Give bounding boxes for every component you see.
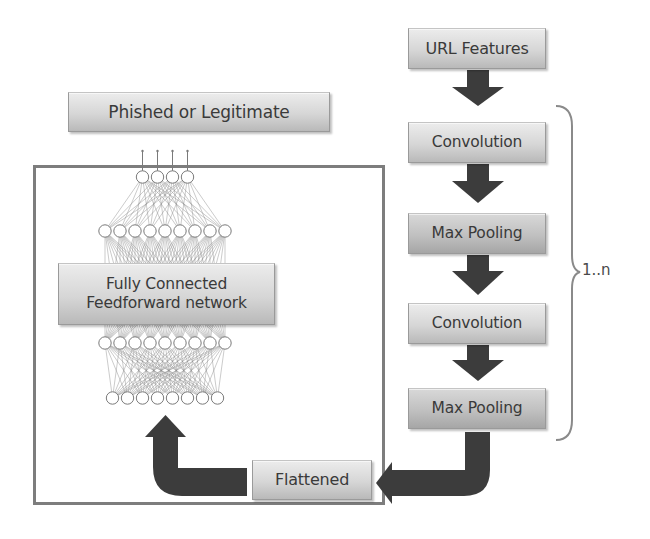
neuron-node-icon — [136, 171, 148, 183]
flattened-label: Flattened — [275, 470, 349, 489]
stage-label: Convolution — [432, 314, 522, 333]
neuron-node-icon — [166, 171, 178, 183]
down-arrow-icon — [452, 164, 504, 203]
neuron-node-icon — [189, 337, 201, 349]
down-arrow-icon — [452, 70, 504, 106]
output-ticks — [141, 150, 188, 171]
stage-label: Max Pooling — [432, 399, 523, 418]
curly-brace-icon — [556, 106, 580, 440]
neuron-node-icon — [166, 392, 178, 404]
neuron-node-icon — [99, 337, 111, 349]
neuron-node-icon — [174, 225, 186, 237]
neuron-node-icon — [204, 225, 216, 237]
neuron-node-icon — [99, 225, 111, 237]
neuron-node-icon — [144, 225, 156, 237]
repeat-label: 1..n — [582, 261, 611, 279]
fully-connected-network-box: Fully Connected Feedforward network — [58, 263, 275, 325]
neuron-node-icon — [196, 392, 208, 404]
down-arrow-icon — [452, 345, 504, 381]
neuron-node-icon — [114, 225, 126, 237]
neuron-node-icon — [174, 337, 186, 349]
neuron-node-icon — [129, 337, 141, 349]
neuron-node-icon — [189, 225, 201, 237]
neuron-node-icon — [204, 337, 216, 349]
max-pooling-box-2: Max Pooling — [408, 388, 546, 429]
neuron-node-icon — [211, 392, 223, 404]
neuron-node-icon — [151, 392, 163, 404]
neuron-node-icon — [159, 337, 171, 349]
stage-label: Max Pooling — [432, 224, 523, 243]
convolution-box-2: Convolution — [408, 303, 546, 344]
neuron-node-icon — [181, 171, 193, 183]
neuron-node-icon — [129, 225, 141, 237]
network-label-line1: Fully Connected — [106, 275, 227, 294]
url-features-box: URL Features — [408, 28, 546, 69]
neuron-node-icon — [144, 337, 156, 349]
stage-label: Convolution — [432, 133, 522, 152]
neuron-node-icon — [121, 392, 133, 404]
neuron-node-icon — [219, 225, 231, 237]
neuron-node-icon — [219, 337, 231, 349]
max-pooling-box-1: Max Pooling — [408, 213, 546, 254]
url-features-label: URL Features — [425, 39, 528, 58]
flattened-box: Flattened — [252, 460, 372, 500]
neuron-node-icon — [136, 392, 148, 404]
network-label-line2: Feedforward network — [86, 294, 246, 313]
curved-arrow-to-network-icon — [145, 415, 247, 496]
neuron-node-icon — [151, 171, 163, 183]
neuron-node-icon — [181, 392, 193, 404]
neuron-node-icon — [159, 225, 171, 237]
curved-arrow-to-flattened-icon — [376, 432, 490, 504]
convolution-box-1: Convolution — [408, 122, 546, 163]
neuron-node-icon — [106, 392, 118, 404]
neuron-node-icon — [114, 337, 126, 349]
down-arrow-icon — [452, 255, 504, 295]
